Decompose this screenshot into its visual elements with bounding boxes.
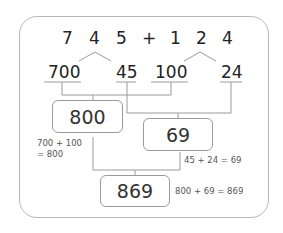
part-700: 700 bbox=[48, 62, 80, 82]
note-total: 800 + 69 = 869 bbox=[175, 186, 243, 197]
part-100: 100 bbox=[155, 62, 187, 82]
total-value: 869 bbox=[117, 180, 153, 202]
note-hundreds-line1: 700 + 100 bbox=[37, 138, 82, 149]
note-hundreds: 700 + 100 = 800 bbox=[37, 138, 82, 160]
part-24: 24 bbox=[221, 62, 243, 82]
box-hundreds-sum: 800 bbox=[52, 100, 123, 133]
rest-sum-value: 69 bbox=[166, 124, 190, 146]
note-hundreds-line2: = 800 bbox=[37, 149, 82, 160]
note-rest: 45 + 24 = 69 bbox=[184, 155, 242, 166]
hundreds-sum-value: 800 bbox=[69, 106, 105, 128]
box-rest-sum: 69 bbox=[143, 118, 213, 151]
box-total: 869 bbox=[100, 175, 170, 207]
part-45: 45 bbox=[116, 62, 138, 82]
